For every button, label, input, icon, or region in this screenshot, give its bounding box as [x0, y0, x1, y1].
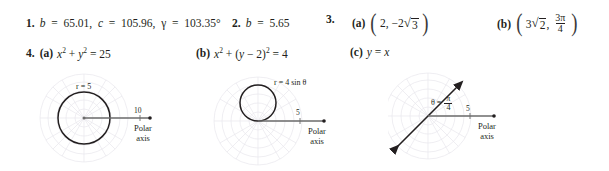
item-4a-equation: x2 + y2 = 25 — [57, 46, 111, 60]
figure-4c-theta-symbol: θ — [431, 98, 435, 107]
figure-4c-numerator: π — [444, 95, 452, 103]
comma-2: , — [153, 17, 159, 29]
item-number-3-label: 3. — [326, 13, 335, 25]
item-number-4: 4. — [26, 47, 35, 59]
figure-4c-axis-label: Polar axis — [478, 122, 496, 142]
item-4c-equation: y = x — [367, 46, 389, 58]
origin-dot-1 — [83, 117, 86, 120]
item-3b-theta-denominator: 4 — [556, 23, 565, 34]
left-paren-2: ( — [516, 13, 522, 34]
figure-4c-svg — [388, 70, 568, 170]
figure-4c-axis-line1: Polar — [478, 121, 496, 131]
item-3a-y-coeff: −2 — [392, 17, 404, 29]
answer-item-3a: (a) ( 2 , −2 √ 3 ) — [352, 13, 429, 34]
figure-4a-equation-label: r = 5 — [76, 82, 91, 91]
item-1-gamma-value: 103.35° — [184, 17, 220, 29]
radical-sign-icon: √ — [404, 16, 411, 29]
equals-sign-2: = — [106, 17, 118, 29]
item-3b-theta-numerator: 3π — [553, 13, 567, 23]
figure-4a-tick-label: 10 — [134, 106, 142, 115]
answer-item-1: 1. b = 65.01, c = 105.96, γ = 103.35° — [26, 17, 221, 29]
answer-item-3-number-wrap: 3. — [326, 13, 340, 25]
figure-4c-equation-label: θ = π 4 — [431, 95, 453, 112]
radical-sign-icon-2: √ — [531, 16, 538, 29]
item-3b-inner: 3 √ 2 , 3π 4 — [524, 13, 570, 34]
figure-4b-axis-line2: axis — [310, 136, 324, 146]
item-3b-radicand: 2 — [539, 18, 547, 31]
item-1-expression: b = 65.01, c = 105.96, γ = 103.35° — [40, 17, 221, 29]
item-3a-coordinate-pair: ( 2 , −2 √ 3 ) — [369, 13, 429, 34]
answer-item-4c: (c) y = x — [350, 46, 389, 58]
figure-4b-axis-line1: Polar — [308, 126, 326, 136]
figure-4c-axis-line2: axis — [480, 131, 494, 141]
item-number-2: 2. — [232, 17, 241, 29]
figure-4b: r = 4 sin θ 5 Polar axis — [208, 70, 388, 170]
item-4a-label: (a) — [40, 47, 53, 59]
figure-4a-axis-line1: Polar — [134, 123, 152, 133]
item-3b-theta-fraction: 3π 4 — [553, 13, 567, 34]
item-4b-equation: x2 + (y − 2)2 = 4 — [214, 46, 288, 60]
item-number-1: 1. — [26, 17, 35, 29]
item-2-b-symbol: b — [246, 17, 252, 29]
figure-4a-svg — [28, 70, 208, 170]
figure-4b-axis-label: Polar axis — [308, 127, 326, 147]
comma-1: , — [89, 17, 95, 29]
item-1-c-symbol: c — [98, 17, 103, 29]
item-2-b-value: 5.65 — [269, 17, 289, 29]
answer-item-3b: (b) ( 3 √ 2 , 3π 4 ) — [497, 13, 579, 34]
figure-4c: θ = π 4 5 Polar axis — [388, 70, 568, 170]
figure-4a: r = 5 10 Polar axis — [28, 70, 208, 170]
item-1-c-value: 105.96 — [121, 17, 153, 29]
figure-4c-denominator: 4 — [444, 103, 452, 112]
left-paren: ( — [371, 13, 377, 34]
answer-item-4b: (b) x2 + (y − 2)2 = 4 — [196, 46, 288, 60]
item-3b-radical: √ 2 — [531, 16, 546, 31]
answer-line-2: 4. (a) x2 + y2 = 25 (b) x2 + (y − 2)2 = … — [0, 46, 609, 66]
figure-4a-axis-label: Polar axis — [134, 124, 152, 144]
item-2-expression: b = 5.65 — [246, 17, 290, 29]
axis-endpoint-dot-1 — [148, 116, 152, 120]
equals-sign-3: = — [169, 17, 181, 29]
item-1-b-symbol: b — [40, 17, 46, 29]
item-3a-radical: √ 3 — [404, 16, 419, 31]
item-4b-label: (b) — [196, 47, 210, 59]
item-1-gamma-symbol: γ — [161, 17, 166, 29]
figure-4a-axis-line2: axis — [136, 133, 150, 143]
axis-endpoint-dot-3 — [492, 114, 496, 118]
figure-4b-equation-label: r = 4 sin θ — [274, 78, 306, 87]
item-3b-comma: , — [546, 18, 552, 30]
item-4c-label: (c) — [350, 46, 363, 58]
item-3a-label: (a) — [352, 17, 365, 29]
answer-item-2: 2. b = 5.65 — [232, 17, 290, 29]
right-paren-2: ) — [571, 13, 577, 34]
item-1-b-value: 65.01 — [63, 17, 89, 29]
figure-4c-fraction: π 4 — [444, 95, 452, 112]
item-3b-label: (b) — [497, 18, 511, 30]
equals-sign: = — [48, 17, 60, 29]
figure-4c-equals: = — [437, 98, 442, 107]
equals-sign-4: = — [254, 17, 266, 29]
answer-item-4: 4. (a) x2 + y2 = 25 — [26, 46, 111, 60]
item-3a-inner: 2 , −2 √ 3 — [378, 16, 421, 31]
figure-4b-tick-label: 5 — [296, 108, 300, 117]
item-3b-coordinate-pair: ( 3 √ 2 , 3π 4 ) — [515, 13, 579, 34]
item-3a-radicand: 3 — [411, 18, 419, 31]
figure-4c-tick-label: 5 — [466, 104, 470, 113]
axis-endpoint-dot-2 — [322, 119, 326, 123]
right-paren: ) — [422, 13, 428, 34]
answer-line-1: 1. b = 65.01, c = 105.96, γ = 103.35° 2.… — [0, 11, 609, 41]
